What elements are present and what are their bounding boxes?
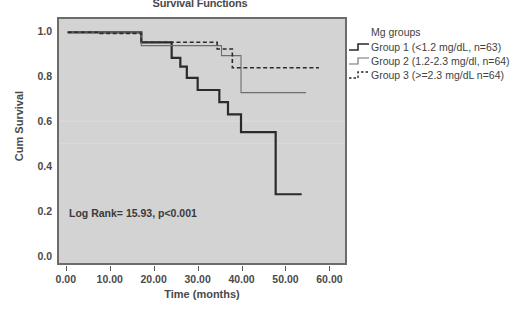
legend-item-group-2: Group 2 (1.2-2.3 mg/dl, n=64) <box>349 54 523 68</box>
chart-title: Survival Functions <box>0 0 400 9</box>
x-tick-label: 10.00 <box>87 273 133 285</box>
curve-series-3 <box>68 32 319 67</box>
x-tick-mark <box>329 266 330 271</box>
x-tick-mark <box>154 266 155 271</box>
survival-chart-figure: Survival Functions 0.00.20.40.60.81.0 Cu… <box>0 0 523 314</box>
x-tick-mark <box>66 266 67 271</box>
legend-item-group-3: Group 3 (>=2.3 mg/dL n=64) <box>349 68 523 82</box>
x-tick-label: 20.00 <box>131 273 177 285</box>
legend-item-group-1: Group 1 (<1.2 mg/dL, n=63) <box>349 40 523 54</box>
y-tick-label: 0.0 <box>18 251 52 261</box>
x-tick-mark <box>242 266 243 271</box>
legend-label-group-1: Group 1 (<1.2 mg/dL, n=63) <box>371 41 501 53</box>
legend-sample-group-3 <box>349 68 369 82</box>
x-tick-label: 0.00 <box>43 273 89 285</box>
curve-series-2 <box>68 32 306 92</box>
x-tick-mark <box>285 266 286 271</box>
x-tick-label: 40.00 <box>219 273 265 285</box>
y-tick-label: 0.2 <box>18 206 52 216</box>
legend-label-group-3: Group 3 (>=2.3 mg/dL n=64) <box>371 69 504 81</box>
legend: Mg groups Group 1 (<1.2 mg/dL, n=63) Gro… <box>349 26 523 82</box>
plot-area: Log Rank= 15.93, p<0.001 <box>57 17 347 265</box>
x-tick-label: 30.00 <box>175 273 221 285</box>
survival-curves <box>59 19 345 263</box>
x-axis-title: Time (months) <box>57 288 347 300</box>
y-tick-label: 1.0 <box>18 26 52 36</box>
x-tick-label: 50.00 <box>262 273 308 285</box>
x-axis-ticks: 0.0010.0020.0030.0040.0050.0060.00 <box>57 266 347 290</box>
curve-series-1 <box>68 32 302 194</box>
log-rank-annotation: Log Rank= 15.93, p<0.001 <box>69 207 197 219</box>
y-axis-title: Cum Survival <box>13 61 25 191</box>
x-tick-label: 60.00 <box>306 273 352 285</box>
legend-sample-group-2 <box>349 54 369 68</box>
x-tick-mark <box>198 266 199 271</box>
x-tick-mark <box>110 266 111 271</box>
legend-label-group-2: Group 2 (1.2-2.3 mg/dl, n=64) <box>371 55 510 67</box>
legend-sample-group-1 <box>349 40 369 54</box>
legend-title: Mg groups <box>371 26 523 38</box>
